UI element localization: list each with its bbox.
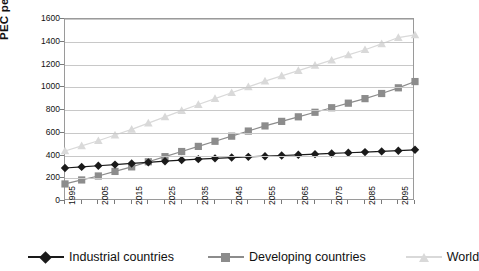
x-tick-label: 2015 [135,186,144,205]
series-world [61,31,420,155]
x-tick-mark [247,200,248,204]
y-tick-mark [60,86,64,87]
chart-legend: Industrial countriesDeveloping countries… [0,246,444,268]
data-point-marker [127,125,136,133]
x-tick-mark [397,200,398,204]
data-point-marker [261,122,268,129]
x-tick-mark [164,200,165,204]
x-tick-mark [297,200,298,204]
x-tick-mark [331,200,332,204]
legend-swatch [406,251,442,263]
plot-area [64,18,414,200]
data-point-marker [295,113,302,120]
x-tick-mark [81,200,82,204]
y-tick-mark [60,41,64,42]
y-tick-label: 800 [24,105,60,114]
gridline [65,65,413,66]
x-tick-mark [114,200,115,204]
x-tick-label: 2005 [101,186,110,205]
x-tick-label: 2055 [268,186,277,205]
x-tick-label: 1995 [68,186,77,205]
x-tick-label: 2035 [201,186,210,205]
y-tick-label: 1000 [24,82,60,91]
legend-label: World [447,250,479,264]
legend-item-developing-countries[interactable]: Developing countries [208,250,366,264]
x-tick-mark [181,200,182,204]
x-tick-mark [264,200,265,204]
gridline [65,178,413,179]
data-point-marker [177,156,185,164]
x-tick-label: 2095 [401,186,410,205]
data-point-marker [411,146,419,154]
legend-label: Developing countries [249,250,366,264]
legend-item-world[interactable]: World [406,250,479,264]
legend-swatch [28,251,64,263]
data-point-marker [278,118,285,125]
gridline [65,133,413,134]
x-tick-mark [97,200,98,204]
y-tick-label: 0 [24,196,60,205]
x-tick-mark [147,200,148,204]
data-point-marker [311,150,319,158]
x-tick-mark [347,200,348,204]
y-tick-label: 600 [24,128,60,137]
gridline [65,87,413,88]
data-point-marker [178,148,185,155]
x-tick-mark [231,200,232,204]
gridline [65,19,413,20]
y-tick-mark [60,132,64,133]
data-point-marker [77,163,85,171]
legend-swatch [208,251,244,263]
y-tick-label: 200 [24,173,60,182]
gridline [65,110,413,111]
legend-marker-square-icon [221,253,230,262]
x-tick-mark [214,200,215,204]
data-point-marker [195,143,202,150]
legend-label: Industrial countries [69,250,174,264]
x-tick-label: 2085 [368,186,377,205]
data-point-marker [361,95,368,102]
x-tick-label: 2025 [168,186,177,205]
series-industrial-countries [61,146,419,173]
data-point-marker [111,160,119,168]
gridline [65,42,413,43]
data-point-marker [345,100,352,107]
y-tick-mark [60,64,64,65]
data-point-marker [377,147,385,155]
legend-item-industrial-countries[interactable]: Industrial countries [28,250,174,264]
x-tick-label: 2075 [335,186,344,205]
data-point-marker [394,147,402,155]
y-tick-mark [60,18,64,19]
data-point-marker [111,168,118,175]
data-point-marker [378,90,385,97]
x-tick-mark [64,200,65,204]
y-tick-mark [60,109,64,110]
data-point-marker [61,164,69,172]
x-tick-mark [364,200,365,204]
x-tick-mark [131,200,132,204]
data-point-marker [94,162,102,170]
y-axis-title: PEC per year in [EJ] [0,0,10,48]
data-point-marker [411,31,420,39]
data-point-marker [411,78,418,85]
data-point-marker [144,119,153,127]
y-axis-tick-labels: 02004006008001000120014001600 [24,0,60,271]
x-tick-mark [314,200,315,204]
x-tick-mark [197,200,198,204]
y-tick-label: 1400 [24,37,60,46]
y-tick-label: 1200 [24,60,60,69]
x-tick-mark [414,200,415,204]
y-tick-mark [60,155,64,156]
x-tick-label: 2045 [235,186,244,205]
y-tick-label: 400 [24,151,60,160]
gridline [65,156,413,157]
x-tick-mark [281,200,282,204]
y-tick-mark [60,200,64,201]
legend-marker-diamond-icon [39,251,52,264]
data-point-marker [244,153,252,161]
x-tick-mark [381,200,382,204]
legend-marker-triangle-icon [419,253,429,262]
y-tick-mark [60,177,64,178]
y-tick-label: 1600 [24,14,60,23]
